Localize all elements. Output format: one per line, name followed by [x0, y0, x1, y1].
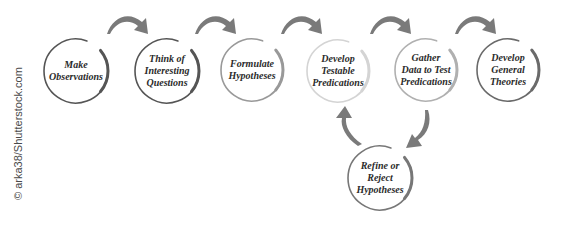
diagram-canvas [0, 0, 570, 232]
node-label-line: Hypotheses [228, 70, 275, 82]
node-label-gather-data: GatherData to TestPredications [394, 40, 458, 100]
arrow-icon [455, 16, 496, 34]
arrow-icon [406, 110, 430, 148]
node-label-line: Think of [149, 53, 185, 65]
node-label-think-questions: Think ofInterestingQuestions [135, 41, 199, 101]
arrow-icon [336, 106, 362, 146]
node-label-make-observations: MakeObservations [44, 41, 108, 101]
node-label-line: Predications [312, 77, 364, 89]
node-label-line: Theories [490, 76, 526, 88]
node-label-line: Develop [321, 53, 354, 65]
node-label-line: Make [64, 59, 87, 71]
node-label-develop-general-theories: DevelopGeneralTheories [476, 40, 540, 100]
node-label-refine-reject-hypotheses: Refine orRejectHypotheses [348, 148, 412, 208]
arrow-icon [195, 16, 236, 34]
node-label-line: General [491, 64, 524, 76]
node-label-line: Refine or [361, 160, 400, 172]
node-label-line: Questions [146, 77, 187, 89]
arrow-icon [370, 16, 411, 34]
credit-text: © arka38/Shutterstock.com [12, 67, 24, 200]
node-label-line: Observations [49, 71, 103, 83]
node-label-line: Reject [367, 172, 393, 184]
nodes [44, 39, 539, 210]
node-label-line: Gather [412, 52, 441, 64]
node-label-line: Hypotheses [356, 184, 403, 196]
node-label-line: Data to Test [401, 64, 450, 76]
node-label-line: Testable [321, 65, 355, 77]
arrow-icon [107, 16, 148, 34]
node-label-line: Formulate [230, 58, 274, 70]
node-label-line: Develop [491, 52, 524, 64]
node-label-develop-testable-predications: DevelopTestablePredications [306, 41, 370, 101]
node-label-formulate-hypotheses: FormulateHypotheses [220, 40, 284, 100]
node-label-line: Predications [400, 76, 452, 88]
node-label-line: Interesting [144, 65, 189, 77]
arrow-icon [281, 16, 322, 34]
